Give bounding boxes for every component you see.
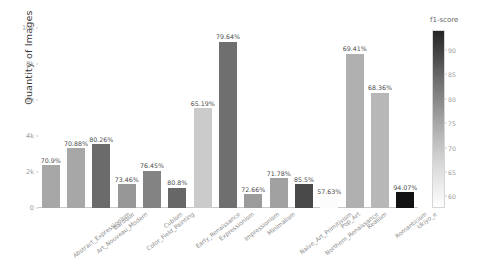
colorbar-tick-label: 90: [448, 46, 456, 53]
bar: 80.8%: [168, 188, 186, 208]
colorbar-tick-label: 85: [448, 71, 456, 78]
colorbar-tick-mark: [445, 147, 447, 148]
bar: 72.66%: [244, 194, 262, 208]
bar: 94.07%: [396, 192, 414, 208]
colorbar-tick-mark: [445, 196, 447, 197]
bar-value-label: 69.41%: [343, 45, 367, 52]
y-tick-mark: [36, 208, 38, 209]
colorbar: 90858075706560: [432, 30, 445, 208]
bar-value-label: 94.07%: [393, 184, 417, 191]
bar-value-label: 57.63%: [317, 188, 341, 195]
colorbar-tick-mark: [445, 123, 447, 124]
y-tick-label: 0: [30, 204, 34, 212]
bar: 73.46%: [118, 184, 136, 208]
y-tick-mark: [36, 172, 38, 173]
y-tick-label: 6k: [26, 96, 34, 104]
colorbar-tick-label: 65: [448, 168, 456, 175]
bar: 57.63%: [320, 196, 338, 208]
plot-area: 02k4k6k8k10k 70.9%70.88%80.26%73.46%76.4…: [38, 28, 418, 208]
bar: 69.41%: [346, 54, 364, 208]
colorbar-tick-mark: [445, 171, 447, 172]
colorbar-tick-mark: [445, 98, 447, 99]
y-tick-mark: [36, 64, 38, 65]
bar-value-label: 68.36%: [368, 84, 392, 91]
bar: 70.88%: [67, 148, 85, 208]
y-tick-label: 2k: [26, 168, 34, 176]
bar-value-label: 65.19%: [191, 100, 215, 107]
colorbar-tick-mark: [445, 74, 447, 75]
bar: 79.64%: [219, 42, 237, 208]
chart-figure: Quantity of Images 02k4k6k8k10k 70.9%70.…: [0, 0, 480, 275]
bar: 68.36%: [371, 93, 389, 208]
y-axis-title: Quantity of Images: [23, 0, 34, 138]
bar-value-label: 70.88%: [64, 140, 88, 147]
colorbar-gradient: [432, 30, 445, 208]
bar-value-label: 71.78%: [267, 170, 291, 177]
colorbar-tick-label: 60: [448, 193, 456, 200]
y-tick-label: 8k: [26, 60, 34, 68]
bar-value-label: 80.26%: [89, 136, 113, 143]
bar: 65.19%: [194, 108, 212, 208]
bar-value-label: 73.46%: [115, 176, 139, 183]
bar-value-label: 85.5%: [294, 176, 314, 183]
bar-value-label: 70.9%: [41, 157, 61, 164]
y-tick-mark: [36, 136, 38, 137]
colorbar-tick-label: 70: [448, 144, 456, 151]
bar: 71.78%: [270, 178, 288, 208]
bar-value-label: 76.45%: [140, 162, 164, 169]
bar: 76.45%: [143, 171, 161, 208]
colorbar-tick-label: 75: [448, 120, 456, 127]
colorbar-tick-mark: [445, 49, 447, 50]
bar: 80.26%: [92, 144, 110, 208]
bar-value-label: 80.8%: [167, 179, 187, 186]
colorbar-title: f1-score: [430, 16, 458, 24]
y-tick-mark: [36, 100, 38, 101]
y-tick-label: 4k: [26, 132, 34, 140]
bar: 70.9%: [42, 165, 60, 208]
bar-value-label: 79.64%: [216, 33, 240, 40]
x-tick-label: Naive_Art_Primitivism: [298, 211, 352, 255]
y-tick-label: 10k: [22, 24, 34, 32]
y-tick-mark: [36, 28, 38, 29]
bar-value-label: 72.66%: [241, 186, 265, 193]
bar: 85.5%: [295, 184, 313, 208]
colorbar-tick-label: 80: [448, 95, 456, 102]
